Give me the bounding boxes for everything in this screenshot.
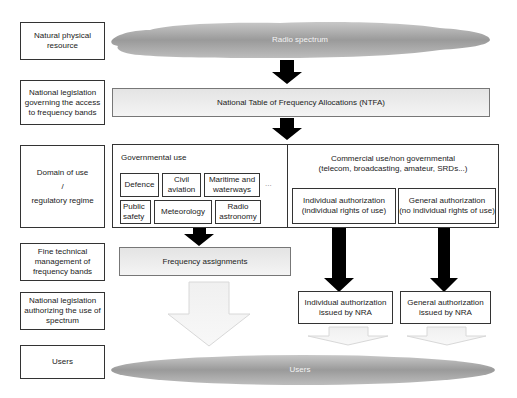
individual-issued-line2: issued by NRA <box>319 308 372 318</box>
users-cloud-label: Users <box>270 365 330 374</box>
gov-item-civil-aviation: Civil aviation <box>162 173 201 197</box>
individual-line2: (individual rights of use) <box>302 206 386 216</box>
individual-authorization-box: Individual authorization (individual rig… <box>292 188 396 224</box>
small-light-arrow-1 <box>308 327 388 345</box>
row-label-natural-resource: Natural physical resource <box>20 22 105 60</box>
gov-item-maritime: Maritime and waterways <box>204 173 260 197</box>
arrow-individual <box>324 220 354 292</box>
general-line2: (no individual rights of use) <box>399 206 495 216</box>
frequency-assignments-bar: Frequency assignments <box>119 247 291 276</box>
general-issued-line1: General authorization <box>407 298 484 308</box>
general-issued-box: General authorization issued by NRA <box>400 291 491 324</box>
gov-item-public-safety: Public safety <box>120 200 151 224</box>
general-line1: General authorization <box>409 196 486 206</box>
arrow-general <box>430 226 458 292</box>
commercial-title: Commercial use/non governmental <box>288 154 498 163</box>
domain-line1: Domain of use <box>37 168 89 178</box>
gov-ellipsis: ... <box>265 179 272 188</box>
general-authorization-box: General authorization (no individual rig… <box>398 188 496 224</box>
individual-line1: Individual authorization <box>303 196 385 206</box>
arrow-down-1 <box>272 60 302 84</box>
ntfa-bar: National Table of Frequency Allocations … <box>112 88 490 117</box>
row-label-fine-technical: Fine technical management of frequency b… <box>20 243 105 281</box>
row-label-users: Users <box>20 345 105 379</box>
commercial-subtitle: (telecom, broadcasting, amateur, SRDs...… <box>288 164 498 173</box>
row-label-national-legislation-access: National legislation governing the acces… <box>20 80 105 125</box>
domain-line3: regulatory regime <box>31 196 93 206</box>
governmental-use-box: Governmental use Defence Civil aviation … <box>112 144 288 228</box>
gov-item-meteorology: Meteorology <box>154 200 212 224</box>
individual-issued-box: Individual authorization issued by NRA <box>298 291 393 324</box>
general-issued-line2: issued by NRA <box>419 308 472 318</box>
commercial-use-box: Commercial use/non governmental (telecom… <box>287 144 499 228</box>
arrow-down-3 <box>184 226 214 246</box>
gov-item-defence: Defence <box>120 173 159 197</box>
radio-spectrum-label: Radio spectrum <box>260 35 340 44</box>
big-light-arrow <box>168 282 250 346</box>
row-label-national-legislation-authorizing: National legislation authorizing the use… <box>20 292 105 330</box>
small-light-arrow-2 <box>407 327 486 345</box>
individual-issued-line1: Individual authorization <box>305 298 387 308</box>
arrow-down-2 <box>272 118 302 140</box>
row-label-domain-of-use: Domain of use / regulatory regime <box>20 145 105 228</box>
gov-item-radio-astronomy: Radio astronomy <box>215 200 261 224</box>
governmental-use-title: Governmental use <box>121 153 186 162</box>
domain-line2: / <box>61 182 63 192</box>
